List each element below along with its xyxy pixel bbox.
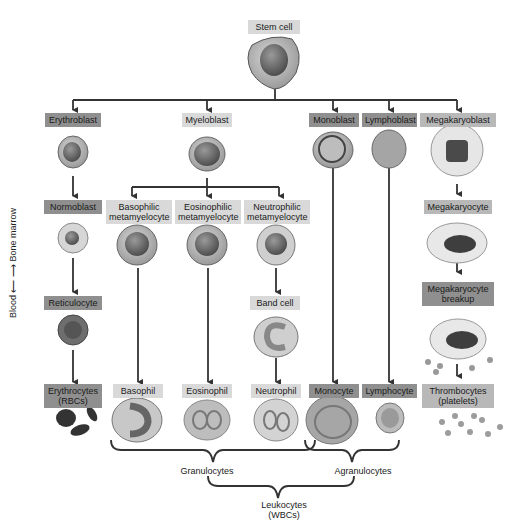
label-line: Erythrocytes [48,386,98,396]
label-megakaryocyte: Megakaryocyte [424,200,492,214]
label-line: (WBCs) [268,510,300,520]
label-line: Megakaryocyte [427,284,488,294]
label-granulocytes: Granulocytes [174,464,240,478]
neutrophilic-metamyelocyte-image [257,225,295,265]
stem-cell-image [248,37,299,89]
label-stem-cell: Stem cell [248,20,300,34]
label-line: Neutrophilic [253,202,301,212]
label-reticulocyte: Reticulocyte [44,296,102,310]
label-line: metamyelocyte [247,212,308,222]
label-line: breakup [442,294,475,304]
label-line: metamyelocyte [178,212,239,222]
label-monoblast: Monoblast [309,113,359,127]
side-marrow-label: Bone marrow [8,208,18,262]
label-line: (RBCs) [58,396,88,406]
label-neutrophil: Neutrophil [251,384,301,398]
label-eosinophil: Eosinophil [182,384,232,398]
eosinophil-image [184,400,230,440]
connector-lines [0,0,517,526]
label-agranulocytes: Agranulocytes [330,464,396,478]
basophil-image [112,398,162,442]
label-lymphoblast: Lymphoblast [362,113,417,127]
erythrocytes-image [56,405,99,438]
myeloblast-image [189,137,225,171]
label-myeloblast: Myeloblast [182,113,232,127]
label-erythrocytes: Erythrocytes(RBCs) [44,384,102,408]
side-blood-label: Blood [8,295,18,318]
label-line: Basophilic [118,202,159,212]
reticulocyte-image [58,315,88,345]
label-thrombocytes: Thrombocytes(platelets) [422,384,494,408]
monocyte-image [306,396,358,444]
label-line: Eosinophilic [184,202,232,212]
basophilic-metamyelocyte-image [117,225,157,265]
side-axis-blood-bone-marrow: Blood ⟵ ⟶ Bone marrow [6,200,20,330]
label-lymphocyte: Lymphocyte [362,384,417,398]
monoblast-image [313,132,353,168]
label-line: (platelets) [438,396,478,406]
label-monocyte: Monocyte [309,384,359,398]
label-basophilic-metamyelocyte: Basophilicmetamyelocyte [106,200,172,224]
band-cell-image [254,317,298,357]
normoblast-image [58,223,88,253]
eosinophilic-metamyelocyte-image [187,225,227,265]
lymphocyte-image [376,403,404,433]
label-neutrophilic-metamyelocyte: Neutrophilicmetamyelocyte [244,200,310,224]
label-band-cell: Band cell [250,296,300,310]
megakaryocyte-image [427,223,487,263]
label-line: metamyelocyte [109,212,170,222]
megakaryoblast-image [431,124,483,176]
side-axis-label: Blood ⟵ ⟶ Bone marrow [8,200,18,326]
lymphoblast-image [372,130,406,168]
erythroblast-image [58,136,88,168]
label-line: Leukocytes [261,500,307,510]
label-normoblast: Normoblast [44,200,102,214]
label-megakaryoblast: Megakaryoblast [420,113,496,127]
megakaryocyte-breakup-image [425,319,493,375]
label-leukocytes: Leukocytes(WBCs) [254,498,314,522]
label-erythroblast: Erythroblast [45,113,101,127]
label-line: Thrombocytes [429,386,486,396]
label-eosinophilic-metamyelocyte: Eosinophilicmetamyelocyte [175,200,241,224]
platelets-image [439,413,503,437]
label-basophil: Basophil [113,384,163,398]
hematopoiesis-diagram: Stem cell Erythroblast Myeloblast Monobl… [0,0,517,526]
neutrophil-image [254,399,298,441]
label-megakaryocyte-breakup: Megakaryocytebreakup [422,282,494,306]
